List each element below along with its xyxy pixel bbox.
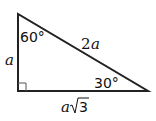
svg-text:2: 2 — [81, 35, 91, 53]
svg-text:a: a — [91, 35, 100, 53]
svg-text:3: 3 — [79, 99, 88, 115]
svg-text:a: a — [61, 98, 70, 116]
hypotenuse-label: 2 a — [81, 35, 100, 53]
angle-label-60: 60° — [20, 29, 45, 45]
vertical-side-label: a — [5, 51, 14, 69]
base-label: a 3 — [61, 98, 89, 116]
angle-label-30: 30° — [94, 75, 119, 91]
right-angle-marker — [18, 83, 26, 91]
triangle-diagram: 60° 30° 2 a a a 3 — [0, 0, 156, 121]
